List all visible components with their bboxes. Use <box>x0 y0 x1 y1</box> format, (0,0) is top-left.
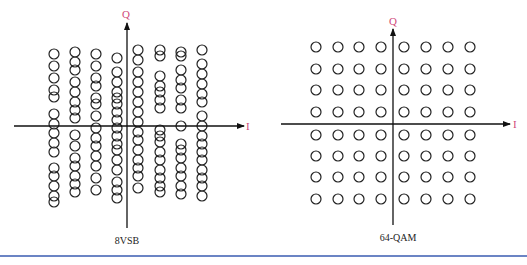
constellation-point <box>333 151 343 161</box>
constellation-point <box>155 187 165 197</box>
constellation-point <box>443 107 453 117</box>
constellation-point <box>443 42 453 52</box>
constellation-point <box>311 42 321 52</box>
constellation-point <box>376 64 386 74</box>
q-axis-label: Q <box>389 15 397 27</box>
constellation-point <box>155 137 165 147</box>
diagram-64qam: I Q 64-QAM <box>281 15 517 243</box>
constellation-point <box>155 45 165 55</box>
constellation-point <box>333 85 343 95</box>
constellation-point <box>112 87 122 97</box>
constellation-point <box>311 172 321 182</box>
constellation-point <box>91 61 101 71</box>
constellation-point <box>354 130 364 140</box>
i-axis-label: I <box>513 118 517 130</box>
constellation-point <box>91 99 101 109</box>
constellation-point <box>354 107 364 117</box>
constellation-point <box>70 130 80 140</box>
constellation-point <box>133 183 143 193</box>
constellation-point <box>376 107 386 117</box>
constellation-point <box>421 42 431 52</box>
constellation-point <box>133 55 143 65</box>
constellation-point <box>70 87 80 97</box>
constellation-point <box>91 161 101 171</box>
constellation-point <box>376 194 386 204</box>
i-axis-label: I <box>246 120 250 132</box>
constellation-point <box>197 79 207 89</box>
constellation-point <box>354 64 364 74</box>
constellation-point <box>91 173 101 183</box>
constellation-point <box>70 47 80 57</box>
constellation-point <box>354 42 364 52</box>
constellation-point <box>91 111 101 121</box>
constellation-point <box>176 65 186 75</box>
constellation-point <box>91 49 101 59</box>
constellation-point <box>354 172 364 182</box>
constellation-point <box>311 85 321 95</box>
constellation-point <box>376 42 386 52</box>
constellation-point <box>133 97 143 107</box>
constellation-point <box>197 45 207 55</box>
constellation-point <box>399 107 409 117</box>
constellation-point <box>197 69 207 79</box>
constellation-point <box>112 53 122 63</box>
constellation-point <box>421 107 431 117</box>
constellation-point <box>443 130 453 140</box>
constellation-point <box>91 93 101 103</box>
caption-8vsb: 8VSB <box>115 235 140 246</box>
constellation-point <box>311 64 321 74</box>
constellation-point <box>465 107 475 117</box>
constellation-point <box>399 194 409 204</box>
constellation-point <box>133 145 143 155</box>
diagram-8vsb: I Q 8VSB <box>14 8 250 246</box>
constellation-point <box>421 194 431 204</box>
constellation-point <box>311 151 321 161</box>
constellation-point <box>399 42 409 52</box>
constellation-point <box>443 64 453 74</box>
constellation-point <box>399 64 409 74</box>
caption-64qam: 64-QAM <box>380 232 417 243</box>
constellation-point <box>399 151 409 161</box>
constellation-point <box>354 85 364 95</box>
constellation-point <box>155 71 165 81</box>
constellation-point <box>311 107 321 117</box>
constellation-point <box>112 165 122 175</box>
constellation-point <box>376 130 386 140</box>
constellation-point <box>443 85 453 95</box>
constellation-point <box>443 172 453 182</box>
constellation-point <box>49 109 59 119</box>
constellation-point <box>133 107 143 117</box>
constellation-point <box>112 145 122 155</box>
constellation-point <box>91 185 101 195</box>
constellation-point <box>333 42 343 52</box>
constellation-point <box>70 77 80 87</box>
constellation-point <box>465 151 475 161</box>
constellation-point <box>197 191 207 201</box>
constellation-point <box>197 59 207 69</box>
q-axis-label: Q <box>122 8 130 20</box>
constellation-point <box>376 85 386 95</box>
constellation-point <box>91 151 101 161</box>
constellation-point <box>376 172 386 182</box>
constellation-point <box>333 130 343 140</box>
constellation-point <box>49 61 59 71</box>
constellation-point <box>443 151 453 161</box>
constellation-point <box>49 197 59 207</box>
constellation-point <box>333 194 343 204</box>
constellation-point <box>465 64 475 74</box>
constellation-point <box>70 141 80 151</box>
constellation-point <box>49 191 59 201</box>
constellation-point <box>465 172 475 182</box>
constellation-point <box>399 85 409 95</box>
constellation-point <box>421 85 431 95</box>
constellation-point <box>155 131 165 141</box>
constellation-point <box>421 151 431 161</box>
constellation-point <box>465 42 475 52</box>
constellation-point <box>133 67 143 77</box>
constellation-point <box>49 49 59 59</box>
constellation-point <box>112 93 122 103</box>
constellation-point <box>333 107 343 117</box>
constellation-point <box>311 194 321 204</box>
constellation-point <box>354 151 364 161</box>
constellation-point <box>112 77 122 87</box>
